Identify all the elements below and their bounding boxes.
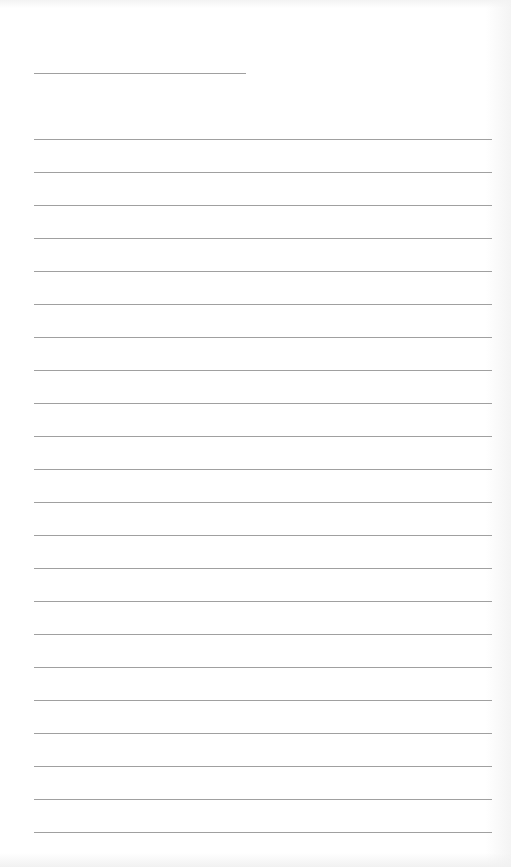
ruled-line xyxy=(34,403,492,436)
ruled-line xyxy=(34,205,492,238)
ruled-line xyxy=(34,436,492,469)
ruled-line xyxy=(34,733,492,766)
ruled-line xyxy=(34,139,492,172)
page-bottom-shadow xyxy=(0,853,511,867)
ruled-line xyxy=(34,502,492,535)
ruled-line xyxy=(34,271,492,304)
ruled-line xyxy=(34,634,492,667)
page-top-shadow xyxy=(0,0,511,8)
ruled-line xyxy=(34,337,492,370)
header-field-line xyxy=(34,73,246,74)
ruled-lines xyxy=(34,139,492,865)
lined-paper-page xyxy=(0,0,511,867)
ruled-line xyxy=(34,469,492,502)
ruled-line xyxy=(34,238,492,271)
ruled-line xyxy=(34,799,492,832)
ruled-line xyxy=(34,601,492,634)
ruled-line xyxy=(34,535,492,568)
ruled-line xyxy=(34,568,492,601)
ruled-line xyxy=(34,304,492,337)
ruled-line xyxy=(34,766,492,799)
ruled-line xyxy=(34,700,492,733)
ruled-line xyxy=(34,370,492,403)
ruled-line xyxy=(34,667,492,700)
ruled-line xyxy=(34,172,492,205)
